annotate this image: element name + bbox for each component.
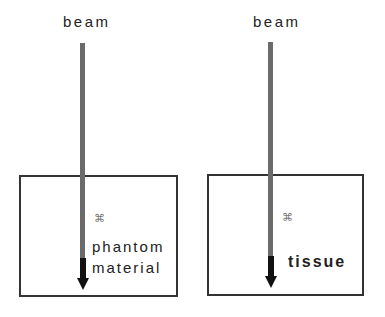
beam-diagram: beam ⌘ phantom material beam ⌘ tissue <box>0 0 385 317</box>
beam-end-right <box>268 256 274 278</box>
beam-label-right: beam <box>253 13 301 30</box>
phantom-label-line1: phantom <box>92 236 164 257</box>
beam-line-right <box>268 42 273 262</box>
arrowhead-icon <box>77 278 89 290</box>
measurement-point-icon: ⌘ <box>94 213 105 224</box>
arrowhead-icon <box>265 276 277 288</box>
phantom-material-label: phantom material <box>92 236 164 278</box>
beam-line-left <box>80 43 85 263</box>
phantom-label-line2: material <box>92 257 164 278</box>
beam-end-left <box>80 258 86 280</box>
beam-label-left: beam <box>63 13 111 30</box>
measurement-point-icon: ⌘ <box>282 212 293 223</box>
tissue-label: tissue <box>288 253 346 271</box>
tissue-box <box>207 174 364 296</box>
